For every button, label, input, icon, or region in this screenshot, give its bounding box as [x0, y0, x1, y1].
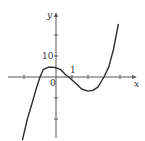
- y-axis-label: y: [46, 10, 53, 20]
- y-axis-arrow-icon: [54, 12, 58, 17]
- origin-label: 0: [50, 78, 56, 88]
- y-tick-label-10: 10: [42, 51, 54, 61]
- x-axis-label: x: [134, 79, 139, 89]
- function-curve: [22, 24, 118, 140]
- cubic-function-graph: x y 0 1 10: [0, 0, 145, 141]
- x-tick-label-1: 1: [70, 65, 76, 75]
